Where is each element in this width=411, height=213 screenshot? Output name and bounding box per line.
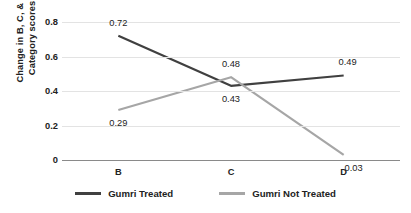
y-axis-tick-label: 0.6 xyxy=(30,52,58,62)
data-point-label: 0.43 xyxy=(222,94,240,104)
legend-label: Gumri Treated xyxy=(108,188,173,199)
y-axis-tick-labels: 00.20.40.60.8 xyxy=(30,0,58,213)
gridline xyxy=(62,91,400,92)
x-axis-tick-label: B xyxy=(115,167,122,177)
data-point-label: 0.48 xyxy=(222,59,240,69)
legend-item[interactable]: Gumri Not Treated xyxy=(219,188,336,199)
legend-line-swatch-icon xyxy=(75,192,101,195)
x-axis-baseline xyxy=(62,160,400,161)
data-point-label: 0.72 xyxy=(109,18,127,28)
chart-legend: Gumri TreatedGumri Not Treated xyxy=(0,188,411,199)
data-point-label: 0.03 xyxy=(345,163,363,173)
data-point-label: 0.29 xyxy=(109,118,127,128)
plot-area xyxy=(62,22,400,160)
y-axis-tick-label: 0.4 xyxy=(30,86,58,96)
y-axis-tick-label: 0.2 xyxy=(30,121,58,131)
y-axis-title-line-1: Change in B, C, & D xyxy=(14,0,26,83)
legend-label: Gumri Not Treated xyxy=(252,188,336,199)
legend-item[interactable]: Gumri Treated xyxy=(75,188,173,199)
line-chart: Change in B, C, & D Category scores 00.2… xyxy=(0,0,411,213)
y-axis-tick-label: 0.8 xyxy=(30,17,58,27)
x-axis-tick-label: C xyxy=(228,167,235,177)
series-line-2 xyxy=(118,77,343,155)
y-axis-tick-label: 0 xyxy=(30,155,58,165)
legend-line-swatch-icon xyxy=(219,192,245,195)
data-point-label: 0.49 xyxy=(339,57,357,67)
